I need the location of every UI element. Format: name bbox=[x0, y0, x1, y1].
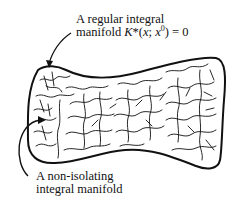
integral-manifold-figure: A regular integral manifold K*(x; x0) = … bbox=[0, 0, 244, 204]
non-isolating-manifold-arrow bbox=[19, 116, 46, 176]
regular-integral-manifold-label: A regular integral manifold K*(x; x0) = … bbox=[76, 13, 189, 39]
integral-curves bbox=[34, 64, 216, 160]
non-isolating-integral-manifold-label: A non-isolating integral manifold bbox=[36, 170, 122, 196]
region-boundary bbox=[28, 58, 225, 169]
regular-label-line2: manifold K*(x; x0) = 0 bbox=[76, 26, 189, 39]
regular-manifold-arrow bbox=[46, 33, 71, 68]
non-isolating-label-line2: integral manifold bbox=[36, 183, 122, 196]
